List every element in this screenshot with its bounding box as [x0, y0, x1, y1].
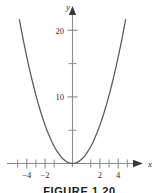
y-axis-label: y [65, 2, 70, 12]
x-axis-arrow-icon [133, 160, 143, 167]
x-tick-label-2: 2 [98, 170, 102, 180]
x-tick-label--4: −4 [22, 170, 32, 180]
y-tick-label-10: 10 [56, 92, 65, 102]
x-axis-label: x [147, 159, 152, 169]
x-tick-label--2: −2 [41, 170, 50, 180]
figure-caption: FIGURE 1.20 [0, 186, 159, 193]
parabola-plot: −4 −2 2 4 10 20 y x [0, 0, 159, 193]
figure-container: −4 −2 2 4 10 20 y x FIGURE 1.20 [0, 0, 159, 193]
y-tick-label-20: 20 [56, 26, 65, 36]
x-tick-label-4: 4 [116, 170, 121, 180]
